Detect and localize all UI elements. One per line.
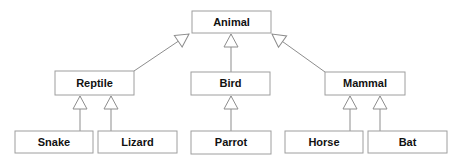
node-reptile-label: Reptile: [76, 77, 113, 89]
node-horse: Horse: [285, 131, 363, 153]
node-horse-label: Horse: [308, 136, 339, 148]
diagram-svg: Animal Reptile Bird Mammal Snake Lizard: [0, 0, 461, 165]
node-mammal: Mammal: [325, 72, 405, 95]
node-bat-label: Bat: [399, 136, 417, 148]
node-parrot: Parrot: [191, 131, 271, 154]
node-reptile: Reptile: [55, 71, 134, 95]
node-lizard-label: Lizard: [121, 136, 153, 148]
hierarchy-diagram: Animal Reptile Bird Mammal Snake Lizard: [0, 0, 461, 165]
node-bat: Bat: [368, 131, 447, 153]
node-mammal-label: Mammal: [343, 77, 387, 89]
nodes: Animal Reptile Bird Mammal Snake Lizard: [15, 11, 447, 154]
edge-reptile-to-animal: [134, 34, 189, 71]
node-animal-label: Animal: [213, 16, 250, 28]
node-lizard: Lizard: [98, 131, 177, 153]
node-animal: Animal: [192, 11, 271, 33]
node-bird-label: Bird: [220, 77, 242, 89]
node-bird: Bird: [191, 72, 270, 95]
node-parrot-label: Parrot: [215, 136, 248, 148]
node-snake-label: Snake: [38, 136, 70, 148]
edge-mammal-to-animal: [272, 34, 325, 72]
node-snake: Snake: [15, 131, 93, 153]
